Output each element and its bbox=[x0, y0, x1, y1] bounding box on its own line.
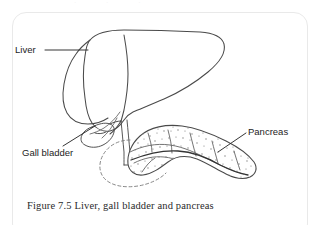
pancreas-shape bbox=[128, 125, 256, 178]
liver-hilum-detail bbox=[90, 112, 120, 138]
liver-shape bbox=[63, 30, 224, 134]
leader-line-gall-bladder bbox=[63, 126, 95, 146]
label-liver: Liver bbox=[15, 44, 36, 55]
gall-bladder-shape bbox=[81, 121, 121, 147]
anatomy-illustration bbox=[0, 0, 319, 225]
figure-screenshot: · · · bbox=[0, 0, 319, 225]
label-pancreas: Pancreas bbox=[248, 126, 288, 137]
figure-caption: Figure 7.5 Liver, gall bladder and pancr… bbox=[27, 200, 214, 211]
label-gall-bladder: Gall bladder bbox=[22, 147, 73, 158]
